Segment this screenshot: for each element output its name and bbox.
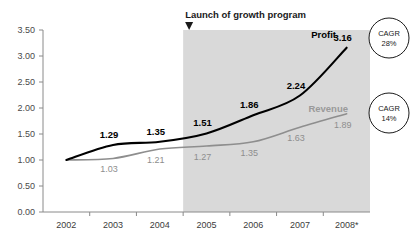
revenue-value-label: 1.21: [147, 155, 165, 165]
y-axis-ticks: 0.000.501.001.502.002.503.003.50: [17, 25, 43, 217]
profit-value-label: 3.16: [333, 32, 352, 43]
cagr-badge-revenue-label: CAGR: [378, 104, 400, 113]
x-tick-label: 2004: [150, 220, 170, 230]
cagr-badge-revenue-circle: [369, 93, 409, 133]
revenue-value-label: 1.63: [287, 133, 305, 143]
cagr-badge-profit-label: CAGR: [378, 29, 400, 38]
revenue-value-label: 1.27: [194, 152, 212, 162]
x-tick-label: 2006: [243, 220, 263, 230]
y-tick-label: 3.50: [17, 25, 35, 35]
x-tick-label: 2003: [103, 220, 123, 230]
x-tick-label: 2002: [56, 220, 76, 230]
y-tick-label: 2.50: [17, 77, 35, 87]
profit-value-label: 1.35: [147, 126, 166, 137]
profit-series-label: Profit: [311, 29, 337, 40]
revenue-value-label: 1.03: [100, 164, 118, 174]
x-tick-label: 2008*: [335, 220, 359, 230]
y-tick-label: 3.00: [17, 51, 35, 61]
profit-value-label: 2.24: [287, 80, 306, 91]
profit-value-label: 1.86: [240, 99, 259, 110]
cagr-badge-revenue: CAGR 14%: [369, 93, 409, 133]
cagr-badge-profit: CAGR 28%: [369, 18, 409, 58]
down-triangle-marker: [185, 22, 193, 30]
profit-value-label: 1.51: [193, 117, 212, 128]
cagr-badge-revenue-value: 14%: [381, 114, 396, 123]
revenue-value-label: 1.35: [240, 148, 258, 158]
annotation-title: Launch of growth program: [185, 9, 306, 20]
revenue-series-label: Revenue: [308, 103, 348, 114]
profit-value-label: 1.29: [100, 129, 119, 140]
y-tick-label: 0.50: [17, 181, 35, 191]
y-tick-label: 0.00: [17, 207, 35, 217]
cagr-badge-profit-value: 28%: [381, 39, 396, 48]
growth-chart: Launch of growth program 0.000.501.001.5…: [0, 0, 415, 248]
x-tick-label: 2007: [290, 220, 310, 230]
x-tick-label: 2005: [196, 220, 216, 230]
chart-canvas: Launch of growth program 0.000.501.001.5…: [0, 0, 415, 248]
y-tick-label: 2.00: [17, 103, 35, 113]
x-axis-ticks: 2002200320042005200620072008*: [56, 212, 359, 230]
y-tick-label: 1.00: [17, 155, 35, 165]
revenue-value-label: 1.89: [334, 120, 352, 130]
y-tick-label: 1.50: [17, 129, 35, 139]
cagr-badge-profit-circle: [369, 18, 409, 58]
